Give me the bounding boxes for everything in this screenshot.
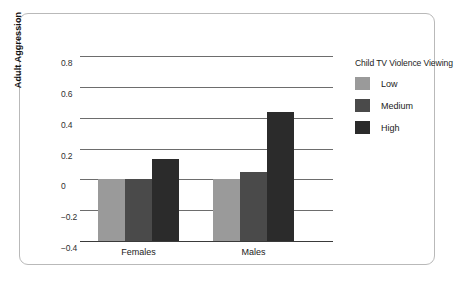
y-axis-tick-label: 0 — [61, 181, 77, 191]
grid-line — [80, 118, 333, 119]
legend-title: Child TV Violence Viewing — [355, 58, 463, 68]
y-axis-tick-label: 0.4 — [61, 120, 77, 130]
bar-females-low — [98, 179, 125, 241]
legend-swatch-medium — [355, 99, 370, 112]
bar-males-medium — [240, 172, 267, 241]
y-axis-tick-label: −0.2 — [61, 212, 77, 222]
axis-baseline — [80, 241, 333, 242]
legend-swatch-low — [355, 77, 370, 90]
x-axis-label-females: Females — [84, 247, 193, 257]
legend-label: High — [381, 123, 400, 133]
y-axis-tick-label: 0.8 — [61, 58, 77, 68]
legend-swatch-high — [355, 121, 370, 134]
y-axis-tick-label: 0.2 — [61, 151, 77, 161]
legend-label: Medium — [381, 101, 413, 111]
legend-item-high[interactable]: High — [355, 121, 463, 134]
legend-item-medium[interactable]: Medium — [355, 99, 463, 112]
grid-line — [80, 56, 333, 57]
bar-males-low — [213, 179, 240, 241]
legend-items: LowMediumHigh — [355, 77, 463, 134]
bar-females-high — [152, 159, 179, 241]
legend-item-low[interactable]: Low — [355, 77, 463, 90]
y-axis-tick-label: −0.4 — [61, 243, 77, 253]
bar-males-high — [267, 112, 294, 242]
chart-card: Adult Aggression 0.80.60.40.20−0.2−0.4 F… — [19, 13, 435, 265]
y-axis-title: Adult Aggression — [13, 0, 23, 110]
legend-label: Low — [381, 79, 398, 89]
y-axis-tick-label: 0.6 — [61, 89, 77, 99]
x-axis-label-males: Males — [199, 247, 308, 257]
legend: Child TV Violence Viewing LowMediumHigh — [355, 58, 463, 134]
plot-area: 0.80.60.40.20−0.2−0.4 FemalesMales — [61, 43, 351, 243]
grid-line — [80, 149, 333, 150]
grid-line — [80, 87, 333, 88]
bar-females-medium — [125, 179, 152, 241]
